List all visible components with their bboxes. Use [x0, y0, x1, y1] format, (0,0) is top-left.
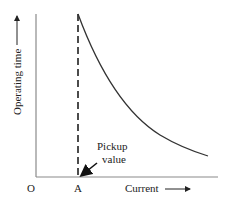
inverse-time-diagram: Operating time O A Pickup value Current — [0, 0, 230, 201]
pickup-label-line1: Pickup — [97, 140, 128, 152]
pickup-arrow-icon — [82, 163, 97, 175]
y-axis-label-group: Operating time — [11, 16, 23, 115]
inverse-time-curve — [78, 14, 208, 156]
x-axis-label: Current — [125, 182, 159, 194]
y-axis-label: Operating time — [11, 49, 23, 115]
pickup-label-line2: value — [102, 153, 126, 165]
origin-label: O — [27, 182, 35, 194]
point-a-label: A — [74, 182, 82, 194]
